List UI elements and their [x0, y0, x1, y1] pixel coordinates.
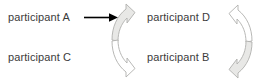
label-participant-b: participant B [147, 51, 209, 64]
label-participant-a: participant A [8, 11, 70, 24]
right-upper-arrow-outline [229, 5, 252, 42]
right-arrow-icon [84, 13, 118, 22]
curved-double-arrow-icon-center [112, 4, 135, 77]
diagram-canvas: participant A participant C participant … [0, 0, 267, 83]
right-lower-arrow-filled [229, 41, 252, 78]
label-participant-d: participant D [147, 11, 210, 24]
center-lower-arrow-outline [112, 40, 135, 77]
label-participant-c: participant C [8, 51, 71, 64]
center-upper-arrow-filled [112, 4, 135, 41]
curved-double-arrow-icon-right [229, 5, 252, 78]
